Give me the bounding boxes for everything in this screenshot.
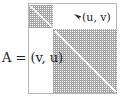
matrix-label: A = (v, u) bbox=[2, 51, 63, 64]
large-block-diagonal bbox=[55, 31, 116, 92]
entry-label: (u, v) bbox=[81, 12, 112, 23]
small-block-diagonal bbox=[30, 6, 52, 27]
